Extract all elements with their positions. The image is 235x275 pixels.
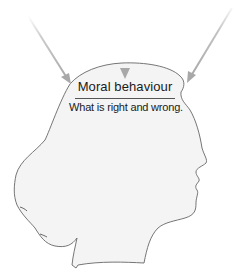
title-underline [75,98,175,99]
diagram-title: Moral behaviour [60,79,190,94]
diagram-subtitle: What is right and wrong. [52,101,200,113]
right-arrow [187,8,232,83]
head-diagram [0,0,235,275]
left-arrow [28,16,71,84]
